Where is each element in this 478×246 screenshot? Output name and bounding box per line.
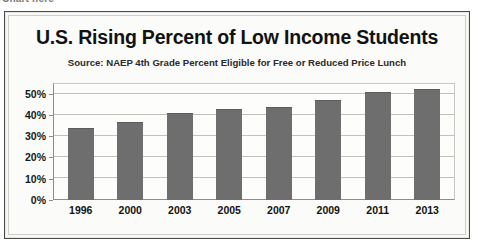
x-axis-tick-label: 2009	[304, 204, 354, 216]
bar-1996[interactable]	[68, 128, 94, 200]
bar-slot	[353, 83, 403, 200]
y-axis-tick-label: 10%	[25, 173, 46, 185]
chart-frame: U.S. Rising Percent of Low Income Studen…	[4, 11, 470, 239]
x-axis-tick-label: 2013	[403, 204, 453, 216]
cropped-text-sliver: Chart here	[0, 0, 478, 7]
bar-slot	[304, 83, 354, 200]
chart-subtitle-source: Source: NAEP 4th Grade Percent Eligible …	[5, 57, 469, 68]
x-axis-tick-label: 2007	[254, 204, 304, 216]
y-axis: 0%10%20%30%40%50%	[5, 78, 49, 205]
bar-slot	[56, 83, 106, 200]
chart-title: U.S. Rising Percent of Low Income Studen…	[5, 26, 469, 49]
bar-2003[interactable]	[167, 113, 193, 200]
x-axis-tick-label: 2011	[353, 204, 403, 216]
bar-2013[interactable]	[414, 89, 440, 200]
bar-2005[interactable]	[216, 109, 242, 200]
x-axis: 19962000200320052007200920112013	[53, 204, 455, 216]
bar-2007[interactable]	[266, 107, 292, 200]
y-axis-tick-label: 20%	[25, 151, 46, 163]
bar-slot	[254, 83, 304, 200]
x-axis-tick-label: 2005	[205, 204, 255, 216]
bar-2009[interactable]	[315, 100, 341, 200]
y-axis-tick-label: 40%	[25, 109, 46, 121]
bar-slot	[205, 83, 255, 200]
plot-region	[53, 83, 455, 200]
x-axis-tick-label: 2003	[155, 204, 205, 216]
bar-2000[interactable]	[117, 122, 143, 200]
x-axis-tick-label: 2000	[106, 204, 156, 216]
bar-slot	[155, 83, 205, 200]
y-axis-tick-label: 30%	[25, 130, 46, 142]
bar-2011[interactable]	[365, 92, 391, 200]
bar-slot	[403, 83, 453, 200]
y-axis-tick-label: 50%	[25, 88, 46, 100]
y-axis-tick-label: 0%	[31, 194, 46, 206]
y-axis-tick-mark	[49, 200, 53, 201]
x-axis-tick-label: 1996	[56, 204, 106, 216]
cropped-text-sliver-label: Chart here	[2, 0, 54, 4]
bars-layer	[53, 83, 455, 200]
bar-slot	[106, 83, 156, 200]
